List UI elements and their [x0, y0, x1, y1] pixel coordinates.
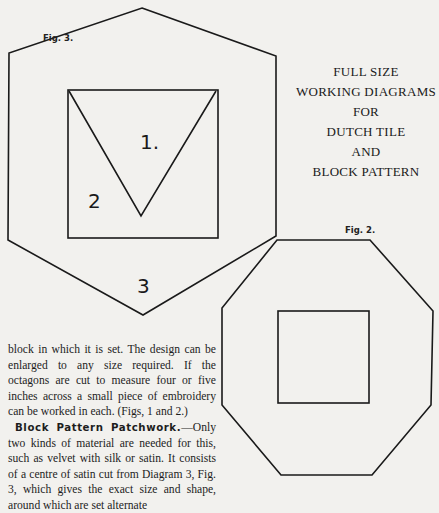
paragraph-octagons: block in which it is set. The design can…	[8, 342, 216, 420]
diagram-title: FULL SIZE WORKING DIAGRAMS FOR DUTCH TIL…	[292, 62, 439, 182]
fig3-hexagon	[8, 8, 276, 315]
fig2-inner-square	[278, 311, 369, 403]
fig2-label: Fig. 2.	[345, 225, 375, 235]
fig2-octagon	[222, 240, 433, 475]
title-line: FULL SIZE	[292, 62, 439, 82]
title-line: WORKING DIAGRAMS	[292, 82, 439, 102]
title-line: FOR	[292, 102, 439, 122]
paragraph-text: —Only two kinds of material are needed f…	[8, 421, 216, 512]
body-text: block in which it is set. The design can…	[8, 342, 216, 513]
fig3-diagram	[8, 8, 276, 315]
paragraph-block-pattern: Block Pattern Patchwork.—Only two kinds …	[8, 420, 216, 513]
fig2-diagram	[222, 240, 433, 475]
piece-number-3: 3	[137, 274, 150, 298]
fig3-label: Fig. 3.	[43, 33, 73, 43]
title-line: AND	[292, 142, 439, 162]
title-line: BLOCK PATTERN	[292, 162, 439, 182]
title-line: DUTCH TILE	[292, 122, 439, 142]
run-in-heading: Block Pattern Patchwork.	[15, 422, 181, 433]
fig3-inner-square	[68, 90, 218, 238]
piece-number-2: 2	[88, 189, 101, 213]
piece-number-1: 1.	[140, 130, 159, 154]
